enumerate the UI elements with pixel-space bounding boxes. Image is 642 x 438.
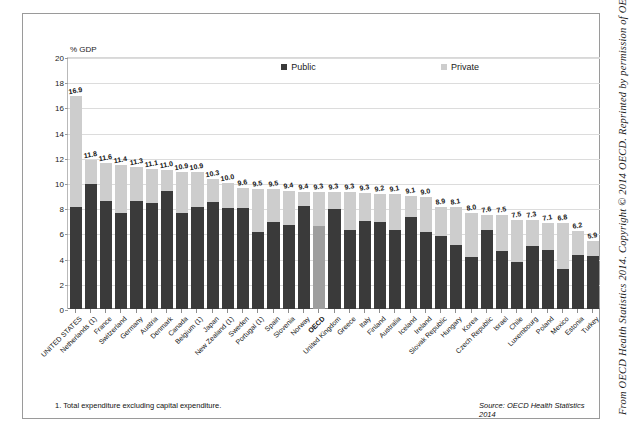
bar-stack: [526, 220, 538, 309]
bar-value-label: 11.6: [98, 153, 112, 162]
bar-segment-public: [405, 217, 417, 309]
x-tick-mark: [349, 309, 350, 313]
bar-segment-public: [557, 269, 569, 309]
bar-stack: [420, 197, 432, 309]
bar-segment-public: [130, 201, 142, 309]
source-text: Source: OECD Health Statistics 2014: [479, 401, 599, 419]
bar-column[interactable]: 10.0: [222, 57, 234, 309]
bar-column[interactable]: 7.3: [526, 57, 538, 309]
chart-legend: PublicPrivate: [68, 62, 600, 82]
bar-column[interactable]: 10.9: [176, 57, 188, 309]
bar-segment-private: [222, 183, 234, 208]
bar-column[interactable]: 9.0: [420, 57, 432, 309]
bar-column[interactable]: 6.8: [557, 57, 569, 309]
bar-column[interactable]: 7.6: [481, 57, 493, 309]
bar-segment-public: [389, 230, 401, 309]
y-tick-label: 20: [55, 54, 64, 63]
bar-segment-public: [176, 213, 188, 309]
x-tick-mark: [90, 309, 91, 313]
bar-column[interactable]: 11.8: [85, 57, 97, 309]
bar-stack: [587, 241, 599, 309]
bar-column[interactable]: 8.9: [435, 57, 447, 309]
bar-segment-private: [389, 194, 401, 229]
bar-column[interactable]: 9.6: [237, 57, 249, 309]
bar-segment-private: [374, 194, 386, 222]
bar-stack: [115, 165, 127, 309]
y-tick-label: 10: [55, 180, 64, 189]
y-tick-label: 16: [55, 104, 64, 113]
bar-value-label: 9.4: [283, 181, 294, 190]
x-tick-mark: [242, 309, 243, 313]
bar-column[interactable]: 9.3: [359, 57, 371, 309]
bar-value-label: 6.2: [572, 221, 583, 230]
bar-stack: [542, 223, 554, 309]
x-tick-mark: [212, 309, 213, 313]
x-tick-mark: [592, 309, 593, 313]
bar-value-label: 9.3: [328, 182, 339, 191]
x-tick-mark: [288, 309, 289, 313]
bar-segment-private: [100, 163, 112, 201]
bar-column[interactable]: 9.4: [298, 57, 310, 309]
bar-column[interactable]: 11.3: [130, 57, 142, 309]
bar-column[interactable]: 9.4: [283, 57, 295, 309]
bar-column[interactable]: 7.5: [511, 57, 523, 309]
legend-item-public[interactable]: Public: [281, 62, 316, 72]
bar-column[interactable]: 8.0: [465, 57, 477, 309]
bar-column[interactable]: 9.5: [267, 57, 279, 309]
y-tick-label: 4: [60, 255, 64, 264]
bar-column[interactable]: 9.3: [313, 57, 325, 309]
bar-series-group: 16.911.811.611.411.311.111.010.910.910.3…: [68, 58, 600, 309]
bar-value-label: 5.9: [587, 231, 598, 240]
bar-segment-private: [130, 167, 142, 201]
bar-value-label: 11.3: [129, 157, 143, 166]
bar-value-label: 9.1: [389, 185, 400, 194]
bar-segment-public: [115, 213, 127, 309]
bar-stack: [481, 215, 493, 309]
bar-column[interactable]: 9.1: [405, 57, 417, 309]
x-axis-label: Israel: [492, 315, 509, 332]
x-tick-mark: [577, 309, 578, 313]
y-tick-label: 14: [55, 129, 64, 138]
bar-column[interactable]: 10.9: [191, 57, 203, 309]
x-tick-mark: [455, 309, 456, 313]
bar-segment-private: [207, 179, 219, 202]
bar-segment-private: [176, 172, 188, 214]
x-tick-mark: [151, 309, 152, 313]
bar-column[interactable]: 8.1: [450, 57, 462, 309]
bar-column[interactable]: 6.2: [572, 57, 584, 309]
bar-value-label: 11.4: [114, 155, 128, 164]
bar-column[interactable]: 11.4: [115, 57, 127, 309]
bar-stack: [222, 183, 234, 309]
bar-value-label: 10.9: [174, 162, 189, 171]
bar-segment-private: [526, 220, 538, 246]
bar-column[interactable]: 9.1: [389, 57, 401, 309]
bar-segment-private: [85, 160, 97, 184]
bar-column[interactable]: 9.3: [328, 57, 340, 309]
bar-column[interactable]: 11.6: [100, 57, 112, 309]
bar-segment-public: [161, 191, 173, 309]
bar-column[interactable]: 9.5: [252, 57, 264, 309]
bar-stack: [435, 207, 447, 309]
bar-column[interactable]: 16.9: [70, 57, 82, 309]
bar-column[interactable]: 7.5: [496, 57, 508, 309]
bar-column[interactable]: 11.0: [161, 57, 173, 309]
bar-column[interactable]: 11.1: [146, 57, 158, 309]
y-tick-label: 6: [60, 230, 64, 239]
bar-value-label: 9.5: [252, 180, 263, 189]
bar-column[interactable]: 7.1: [542, 57, 554, 309]
legend-label: Private: [451, 62, 479, 72]
bar-column[interactable]: 9.2: [374, 57, 386, 309]
bar-segment-private: [267, 189, 279, 222]
bar-column[interactable]: 10.3: [207, 57, 219, 309]
bar-column[interactable]: 5.9: [587, 57, 599, 309]
bar-segment-private: [496, 215, 508, 252]
bar-segment-private: [420, 197, 432, 232]
bar-segment-private: [572, 231, 584, 255]
legend-item-private[interactable]: Private: [441, 62, 479, 72]
bar-stack: [511, 220, 523, 309]
bar-column[interactable]: 9.3: [344, 57, 356, 309]
bar-value-label: 10.3: [205, 169, 220, 178]
bar-value-label: 8.1: [450, 197, 461, 206]
bar-segment-public: [328, 209, 340, 309]
bar-value-label: 7.3: [526, 210, 537, 219]
